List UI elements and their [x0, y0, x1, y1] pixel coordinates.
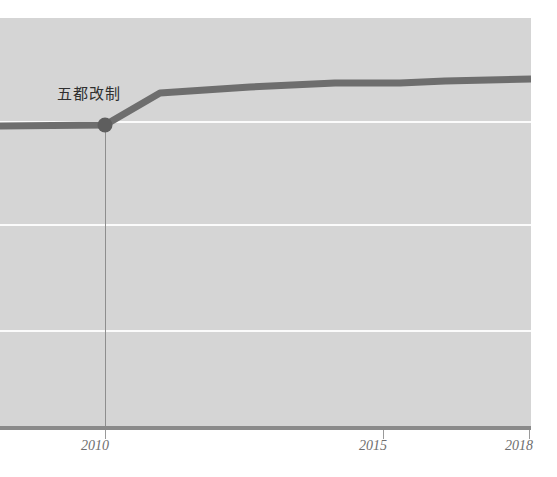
data-series-line [0, 18, 531, 429]
chart-figure: 五都改制 2010 2015 2018 [0, 0, 557, 477]
event-marker-dot [98, 118, 113, 133]
x-tick-label-2018: 2018 [505, 438, 533, 454]
plot-area [0, 18, 531, 429]
x-tick-label-2010: 2010 [81, 438, 109, 454]
x-axis-line [0, 426, 531, 430]
event-annotation-label: 五都改制 [57, 82, 121, 103]
x-tick-label-2015: 2015 [359, 438, 387, 454]
